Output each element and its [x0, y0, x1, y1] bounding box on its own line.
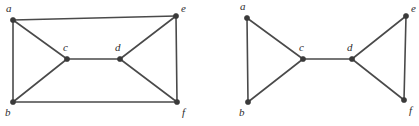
right-graph-label-c: c	[299, 41, 304, 53]
left-graph-vertex-d	[117, 56, 122, 61]
left-graph: abcdef	[5, 2, 187, 118]
left-graph-label-b: b	[5, 106, 11, 118]
left-graph-vertex-f	[174, 99, 179, 104]
graph-canvas: abcdefabcdef	[0, 0, 419, 126]
left-graph-vertex-e	[173, 13, 178, 18]
graph-figure: abcdefabcdef	[0, 0, 419, 126]
left-graph-vertex-c	[64, 56, 69, 61]
right-graph-edge-d-e	[352, 16, 406, 59]
left-graph-edge-d-e	[120, 16, 176, 59]
left-graph-label-f: f	[182, 106, 187, 118]
right-graph-label-a: a	[240, 0, 246, 12]
left-graph-label-d: d	[115, 41, 121, 53]
left-graph-label-c: c	[63, 41, 68, 53]
right-graph: abcdef	[239, 0, 416, 118]
right-graph-label-b: b	[239, 106, 245, 118]
right-graph-label-d: d	[347, 41, 353, 53]
left-graph-edge-a-e	[13, 16, 176, 20]
right-graph-vertex-f	[401, 97, 406, 102]
right-graph-vertex-c	[300, 56, 305, 61]
right-graph-vertex-d	[349, 56, 354, 61]
left-graph-vertex-b	[10, 99, 15, 104]
left-graph-vertex-a	[10, 17, 15, 22]
left-graph-label-e: e	[181, 2, 186, 14]
right-graph-label-f: f	[409, 104, 414, 116]
left-graph-edge-d-f	[120, 59, 177, 102]
right-graph-vertex-b	[245, 99, 250, 104]
right-graph-vertex-a	[244, 15, 249, 20]
right-graph-vertex-e	[403, 13, 408, 18]
left-graph-edge-e-f	[176, 16, 177, 102]
left-graph-label-a: a	[6, 2, 12, 14]
right-graph-edge-d-f	[352, 59, 404, 100]
right-graph-edge-e-f	[404, 16, 406, 100]
right-graph-edge-a-c	[247, 18, 303, 59]
right-graph-edge-b-c	[248, 59, 303, 102]
right-graph-edge-a-b	[247, 18, 248, 102]
right-graph-label-e: e	[411, 2, 416, 14]
left-graph-edge-a-c	[13, 20, 67, 59]
left-graph-edge-b-c	[13, 59, 67, 102]
